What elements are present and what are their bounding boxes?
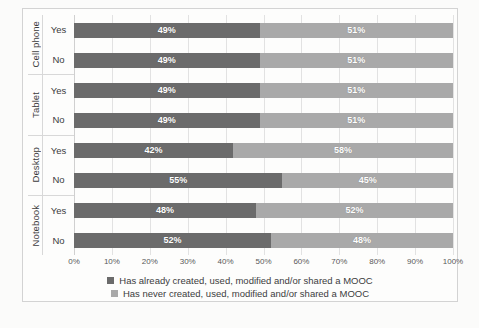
axis-tick-label: 90% (407, 257, 423, 266)
bar-segment: 49% (74, 23, 260, 38)
bar-segment: 51% (260, 113, 453, 128)
group-label: Tablet (28, 75, 43, 134)
bar-segment: 49% (74, 53, 260, 68)
category-group: TabletYesNo (28, 75, 74, 135)
bar-segment: 51% (260, 83, 453, 98)
legend-label: Has never created, used, modified and/or… (123, 288, 369, 299)
bar-value-label: 49% (158, 25, 176, 35)
bar-value-label: 51% (347, 85, 365, 95)
axis-tick-label: 0% (68, 257, 80, 266)
axis-tick-label: 10% (104, 257, 120, 266)
bar-segment: 48% (74, 203, 256, 218)
bar-value-label: 52% (164, 235, 182, 245)
bar-row: 48%52% (74, 203, 453, 218)
bar-row: 42%58% (74, 143, 453, 158)
bar-value-label: 48% (156, 205, 174, 215)
bar-segment: 49% (74, 113, 260, 128)
axis-tick-label: 50% (255, 257, 271, 266)
bar-segment: 51% (260, 23, 453, 38)
chart-frame: Cell phoneYesNoTabletYesNoDesktopYesNoNo… (22, 8, 458, 302)
row-label: No (43, 225, 74, 255)
group-rows: YesNo (43, 196, 74, 255)
row-label: Yes (43, 75, 74, 105)
group-label-text: Cell phone (30, 21, 41, 67)
bar-segment: 48% (271, 233, 453, 248)
bar-row: 49%51% (74, 53, 453, 68)
value-axis: 0%10%20%30%40%50%60%70%80%90%100% (74, 257, 453, 271)
group-label-text: Notebook (30, 205, 41, 246)
bar-value-label: 45% (359, 175, 377, 185)
bar-value-label: 49% (158, 115, 176, 125)
row-label: No (43, 165, 74, 195)
bar-row: 55%45% (74, 173, 453, 188)
bar-segment: 45% (282, 173, 453, 188)
group-label: Notebook (28, 196, 43, 255)
bar-value-label: 58% (334, 145, 352, 155)
gridline (453, 15, 454, 255)
bar-row: 49%51% (74, 83, 453, 98)
axis-tick-label: 60% (293, 257, 309, 266)
row-label: Yes (43, 136, 74, 166)
bar-value-label: 51% (347, 55, 365, 65)
bar-segment: 52% (74, 233, 271, 248)
chart-legend: Has already created, used, modified and/… (23, 275, 457, 299)
bar-segment: 52% (256, 203, 453, 218)
group-label: Cell phone (28, 15, 43, 74)
legend-label: Has already created, used, modified and/… (119, 275, 372, 286)
bar-value-label: 51% (347, 115, 365, 125)
bar-value-label: 51% (347, 25, 365, 35)
bar-segment: 55% (74, 173, 282, 188)
plot-area: 49%51%49%51%49%51%49%51%42%58%55%45%48%5… (74, 15, 453, 255)
axis-tick-label: 70% (331, 257, 347, 266)
bar-value-label: 49% (158, 55, 176, 65)
bar-row: 49%51% (74, 113, 453, 128)
category-group: Cell phoneYesNo (28, 15, 74, 75)
figure-caption (0, 314, 479, 328)
row-label: No (43, 105, 74, 135)
legend-swatch-icon (107, 277, 114, 284)
category-group: DesktopYesNo (28, 136, 74, 196)
axis-tick-label: 100% (443, 257, 463, 266)
group-label-text: Desktop (30, 147, 41, 183)
category-axis: Cell phoneYesNoTabletYesNoDesktopYesNoNo… (28, 15, 74, 255)
axis-tick-label: 80% (369, 257, 385, 266)
bar-value-label: 55% (169, 175, 187, 185)
bar-value-label: 42% (145, 145, 163, 155)
category-group: NotebookYesNo (28, 196, 74, 255)
bar-row: 52%48% (74, 233, 453, 248)
bar-segment: 58% (233, 143, 453, 158)
bar-segment: 51% (260, 53, 453, 68)
row-label: Yes (43, 196, 74, 226)
bar-segment: 49% (74, 83, 260, 98)
legend-item[interactable]: Has never created, used, modified and/or… (111, 288, 369, 299)
row-label: Yes (43, 15, 74, 45)
group-rows: YesNo (43, 15, 74, 74)
bar-value-label: 48% (353, 235, 371, 245)
group-rows: YesNo (43, 136, 74, 195)
bar-value-label: 52% (345, 205, 363, 215)
legend-item[interactable]: Has already created, used, modified and/… (107, 275, 372, 286)
axis-tick-label: 40% (218, 257, 234, 266)
axis-tick-label: 30% (180, 257, 196, 266)
group-label: Desktop (28, 136, 43, 195)
row-label: No (43, 45, 74, 75)
group-rows: YesNo (43, 75, 74, 134)
bar-series-container: 49%51%49%51%49%51%49%51%42%58%55%45%48%5… (74, 15, 453, 255)
bar-segment: 42% (74, 143, 233, 158)
axis-tick-label: 20% (142, 257, 158, 266)
group-label-text: Tablet (30, 92, 41, 118)
legend-swatch-icon (111, 290, 118, 297)
bar-value-label: 49% (158, 85, 176, 95)
bar-row: 49%51% (74, 23, 453, 38)
